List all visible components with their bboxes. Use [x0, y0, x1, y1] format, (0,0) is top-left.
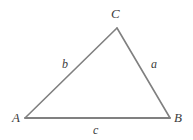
- triangle-figure: C A B b a c: [0, 0, 193, 140]
- vertex-label-b: B: [174, 111, 182, 124]
- side-label-a: a: [151, 58, 157, 70]
- side-label-b: b: [62, 58, 68, 70]
- triangle-side-a-line: [117, 28, 170, 118]
- side-label-c: c: [93, 124, 98, 136]
- triangle-outline-svg: [0, 0, 193, 140]
- triangle-side-b-line: [25, 28, 117, 118]
- vertex-label-c: C: [111, 7, 120, 20]
- vertex-label-a: A: [12, 111, 20, 124]
